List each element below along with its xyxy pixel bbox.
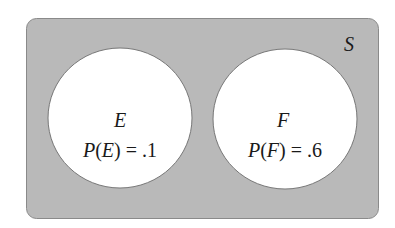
venn-diagram: S E P(E) = .1 F P(F) = .6: [0, 0, 395, 228]
set-f-probability: P(F) = .6: [247, 139, 322, 162]
set-f: F P(F) = .6: [213, 49, 357, 189]
sample-space-label: S: [344, 33, 354, 55]
set-f-label: F: [276, 109, 290, 131]
set-e: E P(E) = .1: [48, 48, 192, 188]
set-e-probability: P(E) = .1: [82, 139, 157, 162]
set-e-label: E: [113, 109, 126, 131]
